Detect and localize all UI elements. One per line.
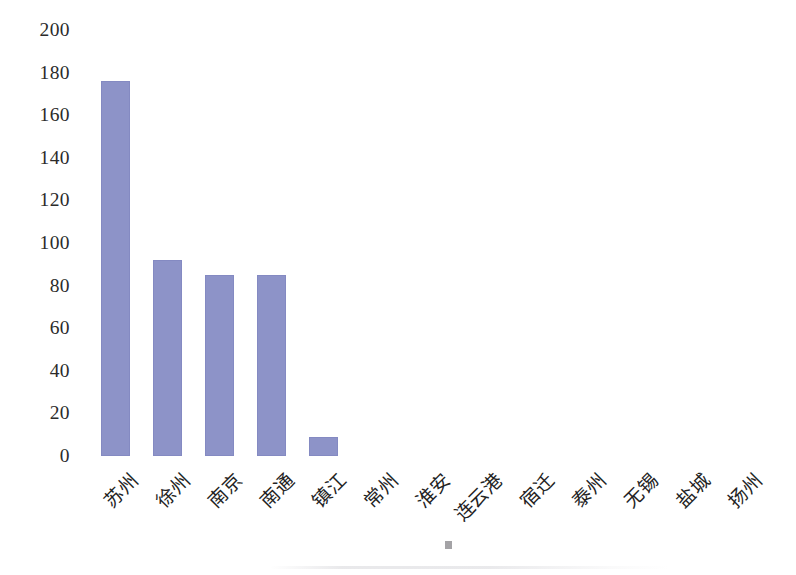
y-axis: 200180160140120100806040200 bbox=[0, 0, 70, 575]
x-axis-tick-label: 淮安 bbox=[412, 470, 454, 512]
bar bbox=[153, 260, 182, 456]
bar bbox=[309, 437, 338, 456]
y-axis-tick-label: 0 bbox=[4, 446, 70, 466]
bar bbox=[101, 81, 130, 456]
y-axis-tick-label: 200 bbox=[4, 20, 70, 40]
x-axis-tick-label: 徐州 bbox=[152, 470, 194, 512]
y-axis-tick-label: 140 bbox=[4, 148, 70, 168]
x-axis-tick-label: 泰州 bbox=[568, 470, 610, 512]
x-axis-tick-label: 南通 bbox=[256, 470, 298, 512]
y-axis-tick-label: 60 bbox=[4, 318, 70, 338]
x-axis-tick-label: 镇江 bbox=[308, 470, 350, 512]
y-axis-tick-label: 100 bbox=[4, 233, 70, 253]
x-axis-tick-label: 无锡 bbox=[620, 470, 662, 512]
y-axis-tick-label: 40 bbox=[4, 361, 70, 381]
y-axis-tick-label: 160 bbox=[4, 105, 70, 125]
x-axis-tick-label: 常州 bbox=[360, 470, 402, 512]
plot-area bbox=[78, 30, 784, 456]
y-axis-tick-label: 80 bbox=[4, 276, 70, 296]
bar bbox=[205, 275, 234, 456]
x-axis-tick-label: 扬州 bbox=[724, 470, 766, 512]
scan-artifact bbox=[270, 566, 670, 569]
x-axis-tick-label: 南京 bbox=[204, 470, 246, 512]
bar-chart: 200180160140120100806040200 苏州徐州南京南通镇江常州… bbox=[0, 0, 796, 575]
y-axis-tick-label: 120 bbox=[4, 190, 70, 210]
bar-series bbox=[78, 30, 784, 456]
x-axis-tick-label: 盐城 bbox=[672, 470, 714, 512]
scan-artifact-mark bbox=[445, 541, 452, 549]
x-axis-tick-label: 苏州 bbox=[100, 470, 142, 512]
y-axis-tick-label: 20 bbox=[4, 403, 70, 423]
y-axis-tick-label: 180 bbox=[4, 63, 70, 83]
x-axis: 苏州徐州南京南通镇江常州淮安连云港宿迁泰州无锡盐城扬州 bbox=[78, 456, 784, 575]
bar bbox=[257, 275, 286, 456]
x-axis-tick-label: 连云港 bbox=[451, 470, 506, 525]
x-axis-tick-label: 宿迁 bbox=[516, 470, 558, 512]
